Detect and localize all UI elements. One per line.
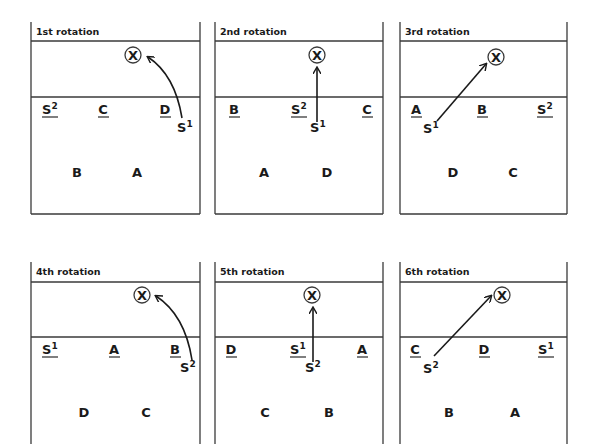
panel-rotation-2: 2nd rotation X B S2 C S1 A D xyxy=(215,22,383,214)
front-center-player: S2 xyxy=(291,101,307,117)
svg-text:X: X xyxy=(491,50,501,65)
back-right-player: B xyxy=(324,405,334,420)
panel-title: 6th rotation xyxy=(405,266,470,277)
panel-rotation-4: 4th rotation X S1 A B S2 D C xyxy=(31,262,200,444)
back-right-player: C xyxy=(141,405,151,420)
front-left-player: B xyxy=(229,102,239,117)
svg-text:X: X xyxy=(128,48,138,63)
back-right-player: A xyxy=(510,405,520,420)
panel-rotation-1: 1st rotation X S2 C D S1 B A xyxy=(31,22,200,214)
court-lines xyxy=(215,22,383,214)
setter-target: X xyxy=(134,287,150,303)
svg-text:X: X xyxy=(137,288,147,303)
back-left-player: C xyxy=(260,405,270,420)
rotation-diagram: 1st rotation X S2 C D S1 B A 2nd rotatio… xyxy=(0,0,594,444)
back-left-player: A xyxy=(259,165,269,180)
front-center-player: C xyxy=(98,102,108,117)
panel-title: 1st rotation xyxy=(36,26,100,37)
back-left-player: B xyxy=(72,165,82,180)
panel-rotation-3: 3rd rotation X A B S2 S1 D C xyxy=(400,22,567,214)
front-right-player: C xyxy=(362,102,372,117)
back-right-player: D xyxy=(322,165,333,180)
back-left-player: D xyxy=(448,165,459,180)
penetrating-setter: S1 xyxy=(177,119,193,135)
back-right-player: A xyxy=(132,165,142,180)
back-right-player: C xyxy=(508,165,518,180)
setter-target: X xyxy=(304,287,320,303)
setter-target: X xyxy=(309,47,325,63)
front-left-player: A xyxy=(411,102,421,117)
front-right-player: D xyxy=(160,102,171,117)
penetrating-setter: S2 xyxy=(423,360,439,376)
panel-rotation-6: 6th rotation X C D S1 S2 B A xyxy=(400,262,567,444)
panel-rotation-5: 5th rotation X D S1 A S2 C B xyxy=(215,262,383,444)
front-left-player: S2 xyxy=(42,101,58,117)
penetrating-setter: S2 xyxy=(180,359,196,375)
front-right-player: S1 xyxy=(538,341,554,357)
front-left-player: C xyxy=(410,342,420,357)
front-center-player: B xyxy=(477,102,487,117)
penetrating-setter: S1 xyxy=(423,120,439,136)
setter-target: X xyxy=(494,287,510,303)
panel-title: 3rd rotation xyxy=(405,26,470,37)
front-right-player: A xyxy=(357,342,367,357)
svg-text:X: X xyxy=(312,48,322,63)
panel-title: 5th rotation xyxy=(220,266,285,277)
penetrating-setter: S2 xyxy=(305,359,321,375)
setter-target: X xyxy=(488,49,504,65)
panel-title: 4th rotation xyxy=(36,266,101,277)
svg-text:X: X xyxy=(307,288,317,303)
front-right-player: S2 xyxy=(537,101,553,117)
back-left-player: B xyxy=(444,405,454,420)
front-center-player: S1 xyxy=(290,341,306,357)
setter-target: X xyxy=(125,47,141,63)
court-lines xyxy=(400,22,567,214)
front-center-player: A xyxy=(109,342,119,357)
svg-text:X: X xyxy=(497,288,507,303)
back-left-player: D xyxy=(79,405,90,420)
front-left-player: S1 xyxy=(42,341,58,357)
front-center-player: D xyxy=(479,342,490,357)
front-right-player: B xyxy=(170,342,180,357)
penetrating-setter: S1 xyxy=(310,119,326,135)
court-lines xyxy=(31,22,200,214)
panel-title: 2nd rotation xyxy=(220,26,287,37)
front-left-player: D xyxy=(226,342,237,357)
